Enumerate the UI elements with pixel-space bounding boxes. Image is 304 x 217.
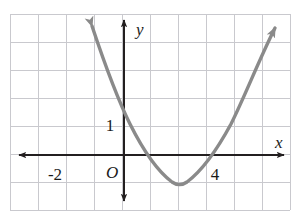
x-axis-label: x: [274, 133, 283, 152]
coordinate-plane-figure: y x O -2 4 1: [0, 0, 304, 217]
y-tick-label-one: 1: [106, 116, 115, 135]
x-tick-label-negative-two: -2: [48, 165, 62, 184]
figure-screenshot: y x O -2 4 1: [0, 0, 304, 217]
origin-label: O: [106, 163, 118, 182]
y-axis-label: y: [134, 20, 144, 39]
figure-background: [0, 0, 304, 217]
x-tick-label-four: 4: [211, 165, 220, 184]
